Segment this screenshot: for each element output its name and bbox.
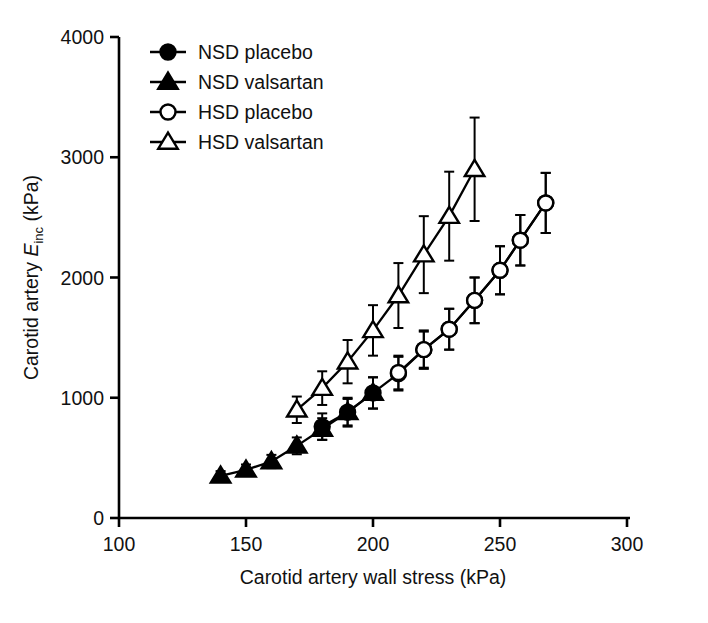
y-tick-label-3000: 3000: [61, 146, 105, 168]
legend-marker-hsd_valsartan: [158, 133, 178, 149]
legend-label-nsd_valsartan: NSD valsartan: [198, 71, 324, 93]
legend-label-nsd_placebo: NSD placebo: [198, 41, 313, 63]
x-tick-label-150: 150: [230, 533, 263, 555]
y-tick-label-4000: 4000: [61, 26, 105, 48]
data-point-open-triangle: [465, 160, 485, 176]
data-point-open-circle: [513, 233, 528, 248]
x-tick-label-250: 250: [484, 533, 517, 555]
figure-container: 01000200030004000100150200250300Carotid …: [0, 0, 708, 623]
x-tick-label-100: 100: [103, 533, 136, 555]
series-line: [322, 203, 546, 427]
data-point-open-triangle: [439, 207, 459, 223]
series-line: [297, 169, 475, 410]
data-point-open-triangle: [363, 321, 383, 337]
data-point-open-triangle: [389, 286, 409, 302]
y-tick-label-1000: 1000: [61, 387, 105, 409]
data-point-open-circle: [467, 293, 482, 308]
legend-label-hsd_placebo: HSD placebo: [198, 101, 313, 123]
x-axis-title: Carotid artery wall stress (kPa): [240, 566, 507, 588]
data-point-open-circle: [416, 342, 431, 357]
data-point-filled-triangle: [262, 452, 282, 468]
data-point-open-circle: [442, 322, 457, 337]
data-point-open-triangle: [414, 245, 434, 261]
legend-marker-hsd_placebo: [161, 105, 176, 120]
data-point-open-circle: [391, 365, 406, 380]
y-tick-label-2000: 2000: [61, 267, 105, 289]
data-point-open-circle: [538, 195, 553, 210]
legend-marker-nsd_valsartan: [158, 73, 178, 89]
x-tick-label-300: 300: [611, 533, 644, 555]
chart-canvas: 01000200030004000100150200250300Carotid …: [0, 0, 708, 623]
data-point-filled-triangle: [287, 436, 307, 452]
x-tick-label-200: 200: [357, 533, 390, 555]
y-axis-title: Carotid artery Einc (kPa): [20, 175, 46, 380]
y-tick-label-0: 0: [93, 507, 104, 529]
legend-marker-nsd_placebo: [161, 45, 176, 60]
data-point-open-circle: [493, 263, 508, 278]
legend-label-hsd_valsartan: HSD valsartan: [198, 131, 324, 153]
